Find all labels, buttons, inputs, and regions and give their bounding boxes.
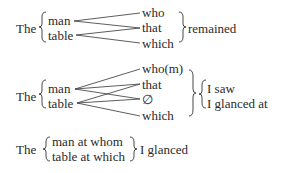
noun-man-2: man bbox=[48, 82, 70, 95]
phrase-man-at-whom: man at whom bbox=[52, 135, 123, 148]
link-table-that bbox=[76, 28, 140, 35]
link-table-which bbox=[76, 35, 140, 43]
relative-whom-2: who(m) bbox=[142, 62, 183, 75]
noun-table-2: table bbox=[48, 97, 73, 110]
link2-table-that bbox=[77, 84, 140, 103]
link-man-that bbox=[74, 21, 140, 28]
determiner-2: The bbox=[16, 90, 36, 103]
link-man-who bbox=[74, 13, 140, 21]
relative-who-1: who bbox=[142, 6, 164, 19]
phrase-table-at-which: table at which bbox=[52, 150, 125, 163]
predicate-1: remained bbox=[188, 22, 236, 35]
left-brace-1 bbox=[39, 12, 46, 42]
relative-which-1: which bbox=[142, 37, 174, 50]
link2-table-null bbox=[77, 99, 140, 103]
relative-that-1: that bbox=[142, 21, 162, 34]
predicate-glanced-at-2: I glanced at bbox=[207, 97, 268, 110]
noun-table-1: table bbox=[48, 29, 73, 42]
relative-which-2: which bbox=[142, 109, 174, 122]
link2-table-which bbox=[77, 103, 140, 116]
predicate-saw-2: I saw bbox=[207, 82, 235, 95]
left-brace-3 bbox=[43, 137, 50, 161]
noun-man-1: man bbox=[48, 14, 70, 27]
relative-null-2: ∅ bbox=[142, 93, 153, 106]
determiner-1: The bbox=[16, 22, 36, 35]
right-brace-2 bbox=[189, 70, 196, 116]
left-brace-2b bbox=[199, 80, 206, 108]
link2-man-that bbox=[75, 84, 140, 89]
right-brace-1 bbox=[179, 12, 186, 42]
link2-man-whom bbox=[75, 69, 140, 89]
predicate-3: I glanced bbox=[140, 143, 188, 156]
relative-that-2: that bbox=[142, 78, 162, 91]
right-brace-3 bbox=[130, 137, 137, 161]
determiner-3: The bbox=[16, 143, 36, 156]
left-brace-2 bbox=[39, 80, 46, 108]
